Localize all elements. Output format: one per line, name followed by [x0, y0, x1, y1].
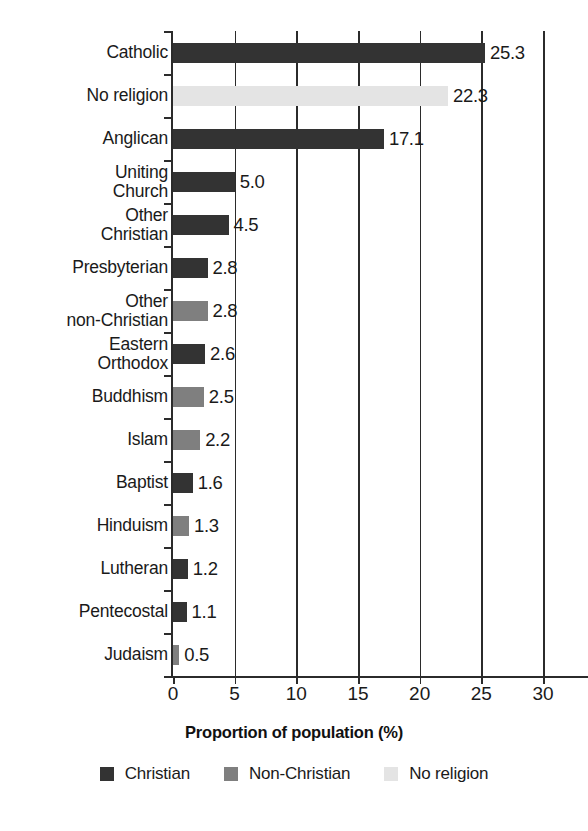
bar-value-label: 0.5	[184, 645, 209, 665]
bar-value-label: 4.5	[234, 215, 259, 235]
plot-area: 25.322.317.15.04.52.82.82.62.52.21.61.31…	[173, 31, 543, 676]
bar-value-label: 1.3	[194, 516, 219, 536]
bar	[173, 559, 188, 579]
category-label: Other non-Christian	[0, 292, 168, 330]
category-label: Judaism	[0, 645, 168, 664]
x-tick-label-5: 5	[229, 683, 240, 705]
category-label: Lutheran	[0, 559, 168, 578]
y-tick	[164, 117, 173, 119]
bar-value-label: 2.2	[205, 430, 230, 450]
y-tick	[164, 547, 173, 549]
x-axis-tick-labels: 051015202530	[173, 683, 543, 709]
bar	[173, 430, 200, 450]
bar	[173, 86, 448, 106]
y-tick	[164, 31, 173, 33]
x-tick-label-10: 10	[286, 683, 307, 705]
bar	[173, 258, 208, 278]
bar-value-label: 1.1	[192, 602, 217, 622]
legend-item-noreligion[interactable]: No religion	[384, 764, 488, 783]
bar-value-label: 5.0	[240, 172, 265, 192]
x-tick-label-15: 15	[347, 683, 368, 705]
y-tick	[164, 246, 173, 248]
bar-value-label: 2.6	[210, 344, 235, 364]
category-label: Anglican	[0, 129, 168, 148]
legend-swatch-icon	[100, 767, 114, 781]
bar	[173, 43, 485, 63]
x-tick-label-30: 30	[532, 683, 553, 705]
category-label: Baptist	[0, 473, 168, 492]
legend-item-nonchristian[interactable]: Non-Christian	[224, 764, 350, 783]
legend-label: Non-Christian	[249, 764, 350, 783]
x-tick-label-20: 20	[409, 683, 430, 705]
y-tick	[164, 375, 173, 377]
x-tick-label-0: 0	[168, 683, 179, 705]
bar-value-label: 22.3	[453, 86, 488, 106]
bar	[173, 473, 193, 493]
y-tick	[164, 203, 173, 205]
y-tick	[164, 332, 173, 334]
category-label: Buddhism	[0, 387, 168, 406]
y-tick	[164, 676, 173, 678]
bar-value-label: 1.2	[193, 559, 218, 579]
y-tick	[164, 633, 173, 635]
x-axis-title: Proportion of population (%)	[0, 723, 588, 742]
bar	[173, 344, 205, 364]
bar	[173, 129, 384, 149]
bar-value-label: 25.3	[490, 43, 525, 63]
x-tick-label-25: 25	[471, 683, 492, 705]
legend-label: No religion	[409, 764, 488, 783]
y-tick	[164, 590, 173, 592]
bar	[173, 301, 208, 321]
y-tick	[164, 74, 173, 76]
chart-legend: ChristianNon-ChristianNo religion	[0, 764, 588, 783]
legend-item-christian[interactable]: Christian	[100, 764, 190, 783]
bar	[173, 516, 189, 536]
bar-value-label: 1.6	[198, 473, 223, 493]
category-label: Eastern Orthodox	[0, 335, 168, 373]
category-label: Catholic	[0, 43, 168, 62]
category-label: Uniting Church	[0, 163, 168, 201]
bar	[173, 215, 229, 235]
category-label: Other Christian	[0, 206, 168, 244]
category-label: No religion	[0, 86, 168, 105]
legend-swatch-icon	[384, 767, 398, 781]
bar-value-label: 2.8	[213, 258, 238, 278]
gridline-25	[481, 31, 483, 676]
y-tick	[164, 461, 173, 463]
category-label: Islam	[0, 430, 168, 449]
gridline-30	[543, 31, 545, 676]
y-tick	[164, 160, 173, 162]
bar	[173, 602, 187, 622]
bar-value-label: 2.8	[213, 301, 238, 321]
bar-value-label: 2.5	[209, 387, 234, 407]
legend-label: Christian	[125, 764, 190, 783]
bar-value-label: 17.1	[389, 129, 424, 149]
bar	[173, 172, 235, 192]
y-tick	[164, 289, 173, 291]
category-label: Presbyterian	[0, 258, 168, 277]
y-tick	[164, 504, 173, 506]
religion-proportion-bar-chart: CatholicNo religionAnglicanUniting Churc…	[0, 0, 588, 831]
bar	[173, 387, 204, 407]
bar	[173, 645, 179, 665]
category-label: Pentecostal	[0, 602, 168, 621]
y-tick	[164, 418, 173, 420]
category-label: Hinduism	[0, 516, 168, 535]
legend-swatch-icon	[224, 767, 238, 781]
